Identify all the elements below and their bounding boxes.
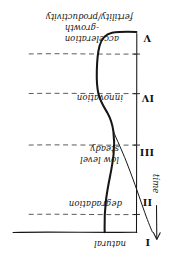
stage-numeral-II: II (142, 197, 152, 208)
stage-label-acceleration-growth: acceleration -growth (65, 23, 119, 44)
stage-label-degradation: degradation (69, 199, 122, 209)
y-axis-label: fertility/productivity (46, 12, 133, 22)
x-axis-label: time (151, 174, 161, 193)
stage-label-acceleration-growth-line1: acceleration (65, 34, 119, 45)
stage-numeral-III: III (139, 147, 154, 158)
stage-label-low-level-steady: low level steady (80, 144, 119, 165)
stage-label-low-level-steady-line1: low level (80, 155, 119, 166)
time-arrow-icon (153, 206, 160, 240)
stage-numeral-I: I (145, 237, 150, 248)
stage-numeral-IV: IV (141, 93, 154, 104)
stage-numeral-V: V (143, 33, 151, 44)
stage-label-innovation: innovation (77, 93, 123, 103)
sketch-canvas: I II III IV V natural degradation low le… (0, 0, 179, 266)
stage-label-low-level-steady-line2: steady (80, 144, 119, 155)
stage-label-natural: natural (94, 239, 126, 249)
stage-label-acceleration-growth-line2: -growth (65, 23, 119, 34)
